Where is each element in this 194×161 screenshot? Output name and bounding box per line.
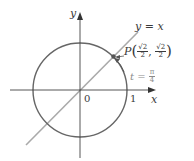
x-axis-label: x [151, 94, 157, 105]
x-tick-label-1: 1 [130, 94, 136, 104]
point-x-fraction: √22 [137, 44, 148, 59]
line-label-lhs: y [135, 20, 141, 33]
origin-label: 0 [84, 94, 90, 104]
y-axis-arrow-icon [77, 12, 83, 20]
line-y-equals-x [26, 32, 138, 145]
line-label-rhs: x [157, 20, 163, 33]
y-axis-label: y [70, 8, 76, 19]
unit-circle-diagram [0, 0, 194, 161]
line-label-eq: = [145, 20, 154, 33]
parameter-eq: = [137, 71, 145, 82]
point-y-fraction: √22 [155, 44, 166, 59]
point-p-dot [111, 54, 115, 58]
arc-arrowhead-icon [114, 58, 120, 63]
parameter-label: t = π4 [130, 69, 155, 84]
point-p-label: P(√22, √22) [124, 44, 172, 59]
parameter-var: t [130, 71, 134, 82]
parameter-fraction: π4 [149, 69, 156, 84]
line-label: y = x [135, 21, 164, 32]
